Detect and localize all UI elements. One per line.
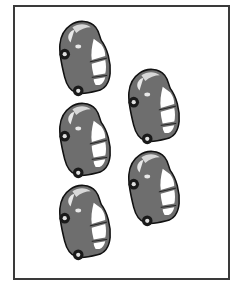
- car-icon: [57, 101, 113, 181]
- car-illustration: [126, 67, 182, 147]
- car-icon: [57, 19, 113, 99]
- car-illustration: [57, 19, 113, 99]
- car-illustration: [57, 183, 113, 263]
- worksheet-frame: [13, 5, 230, 280]
- car-icon: [126, 67, 182, 147]
- car-icon: [57, 183, 113, 263]
- car-illustration: [126, 149, 182, 229]
- car-icon: [126, 149, 182, 229]
- car-illustration: [57, 101, 113, 181]
